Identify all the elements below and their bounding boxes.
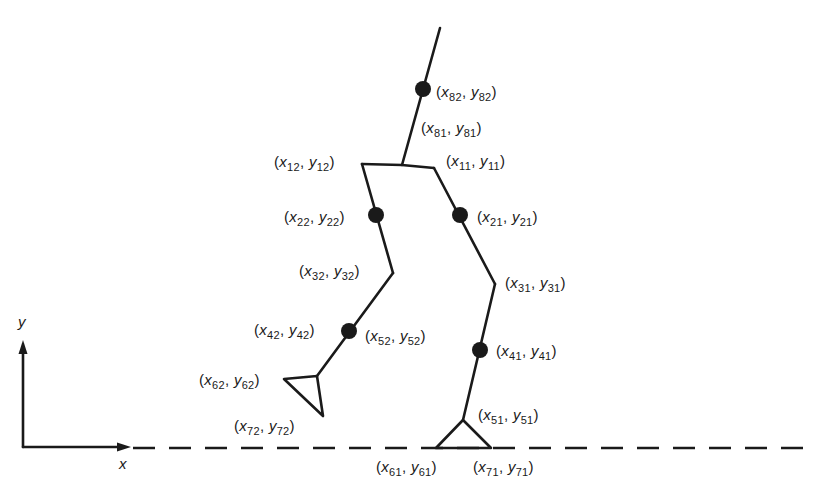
point-label-72: (x72, y72) (234, 418, 295, 437)
point-label-12: (x12, y12) (274, 154, 335, 173)
point-label-31: (x31, y31) (505, 275, 566, 294)
pelvis-segment (362, 164, 434, 168)
point-label-41: (x41, y41) (496, 343, 557, 362)
diagram-canvas (0, 0, 828, 501)
mass-dot-41 (472, 342, 488, 358)
point-label-71: (x71, y71) (473, 459, 534, 478)
point-label-21: (x21, y21) (477, 209, 538, 228)
point-label-32: (x32, y32) (299, 263, 360, 282)
point-label-42: (x42, y42) (254, 322, 315, 341)
left-foot (284, 376, 323, 416)
x-axis-label: x (119, 456, 127, 471)
y-axis-label: y (18, 314, 26, 329)
y-axis-arrow-icon (19, 340, 28, 354)
mass-dot-22 (368, 207, 384, 223)
mass-dot-82 (415, 81, 431, 97)
left-shank (317, 273, 393, 376)
x-axis-arrow-icon (117, 443, 131, 452)
point-label-82: (x82, y82) (436, 84, 497, 103)
point-label-22: (x22, y22) (284, 209, 345, 228)
point-label-62: (x62, y62) (199, 372, 260, 391)
point-label-81: (x81, y81) (421, 120, 482, 139)
point-label-52: (x52, y52) (365, 328, 426, 347)
point-label-61: (x61, y61) (376, 459, 437, 478)
mass-dot-21 (452, 207, 468, 223)
biped-diagram: y x (x82, y82) (x81, y81) (x12, y12) (x1… (0, 0, 828, 501)
point-label-11: (x11, y11) (446, 153, 505, 172)
mass-dot-42 (341, 323, 357, 339)
point-label-51: (x51, y51) (478, 407, 539, 426)
